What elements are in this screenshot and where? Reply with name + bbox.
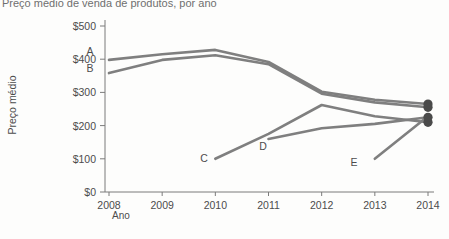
endpoint-markers [423, 99, 432, 126]
y-tick-label: $300 [73, 86, 97, 98]
series-label-C: C [200, 152, 208, 164]
x-tick-label: 2014 [416, 199, 440, 211]
y-tick-label: $500 [73, 20, 97, 32]
endpoint-marker-D [423, 113, 432, 122]
y-tick-label: $0 [84, 186, 96, 198]
x-tick-label: 2010 [204, 199, 228, 211]
x-axis-title: Ano [112, 210, 130, 221]
x-tick-label: 2009 [150, 199, 174, 211]
y-axis-title: Preço médio [6, 75, 18, 134]
series-line-A [109, 50, 428, 104]
plot-series [109, 50, 428, 159]
y-tick-label: $100 [73, 153, 97, 165]
series-line-C [215, 105, 428, 159]
x-tick-label: 2012 [310, 199, 334, 211]
x-tick-label: 2013 [363, 199, 387, 211]
x-tick-labels: 2008200920102011201220132014 [97, 199, 440, 211]
x-tick-label: 2011 [257, 199, 280, 211]
axis-lines [105, 20, 434, 192]
endpoint-marker-B [423, 103, 432, 112]
series-label-E: E [350, 156, 357, 168]
chart-axes [100, 20, 434, 196]
chart-canvas: $0$100$200$300$400$500 20082009201020112… [0, 0, 449, 239]
series-label-B: B [86, 62, 93, 74]
series-label-D: D [259, 140, 267, 152]
y-tick-label: $200 [73, 120, 97, 132]
series-label-A: A [86, 45, 93, 57]
line-chart: Preço médio de venda de produtos, por an… [0, 0, 449, 239]
